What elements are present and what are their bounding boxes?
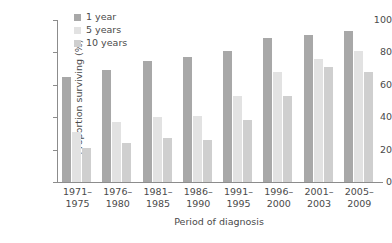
x-axis-line — [57, 182, 383, 183]
legend-item: 10 years — [74, 37, 127, 49]
y-tick-mark — [53, 150, 57, 151]
bar-group-bars — [342, 20, 382, 182]
bar-5-years — [273, 72, 282, 182]
bar-10-years — [283, 96, 292, 182]
bar-5-years — [153, 117, 162, 182]
legend-swatch-icon — [74, 14, 81, 21]
x-tick-label-line2: 2009 — [337, 198, 382, 210]
y-tick-mark — [53, 117, 57, 118]
bar-10-years — [324, 67, 333, 182]
x-tick-label: 1976–1980 — [95, 186, 140, 209]
bar-10-years — [203, 140, 212, 182]
bar-1-year — [102, 70, 111, 182]
bar-5-years — [72, 132, 81, 182]
bar-5-years — [354, 51, 363, 182]
x-tick-label-line2: 1985 — [136, 198, 181, 210]
bar-10-years — [82, 148, 91, 182]
bar-5-years — [193, 116, 202, 182]
x-tick-label-line1: 2001– — [297, 186, 342, 198]
x-tick-label-line2: 1990 — [176, 198, 221, 210]
bar-group: 1996–2000 — [261, 20, 301, 182]
x-tick-label: 1971–1975 — [55, 186, 100, 209]
bar-group: 2001–2003 — [302, 20, 342, 182]
x-tick-label-line2: 2003 — [297, 198, 342, 210]
x-tick-label-line2: 1980 — [95, 198, 140, 210]
x-tick-label-line1: 1996– — [256, 186, 301, 198]
x-tick-label: 2001–2003 — [297, 186, 342, 209]
x-tick-label-line1: 1976– — [95, 186, 140, 198]
bar-5-years — [112, 122, 121, 182]
bar-10-years — [122, 143, 131, 182]
bar-group-bars — [221, 20, 261, 182]
x-tick-label-line1: 1981– — [136, 186, 181, 198]
bar-chart: 020406080100 Proportion surviving (%) 19… — [0, 0, 392, 243]
bar-1-year — [183, 57, 192, 182]
legend-item: 5 years — [74, 24, 127, 36]
legend: 1 year5 years10 years — [74, 11, 127, 50]
y-tick-mark — [53, 20, 57, 21]
bar-group: 1981–1985 — [141, 20, 181, 182]
bar-1-year — [223, 51, 232, 182]
bar-group-bars — [261, 20, 301, 182]
bar-5-years — [314, 59, 323, 182]
x-axis-title: Period of diagnosis — [58, 216, 380, 227]
bar-10-years — [163, 138, 172, 182]
bar-group: 2005–2009 — [342, 20, 382, 182]
bar-10-years — [243, 120, 252, 182]
bar-group-bars — [141, 20, 181, 182]
legend-item: 1 year — [74, 11, 127, 23]
bar-1-year — [143, 61, 152, 183]
y-tick-mark — [53, 85, 57, 86]
legend-label: 5 years — [86, 25, 121, 35]
legend-swatch-icon — [74, 40, 81, 47]
bar-group-bars — [181, 20, 221, 182]
x-tick-label: 1996–2000 — [256, 186, 301, 209]
x-tick-label-line1: 1986– — [176, 186, 221, 198]
bar-1-year — [263, 38, 272, 182]
bar-group-bars — [302, 20, 342, 182]
x-tick-label: 2005–2009 — [337, 186, 382, 209]
x-tick-label-line1: 1971– — [55, 186, 100, 198]
bar-group: 1991–1995 — [221, 20, 261, 182]
x-tick-label-line1: 1991– — [216, 186, 261, 198]
bar-group: 1986–1990 — [181, 20, 221, 182]
x-tick-label-line2: 2000 — [256, 198, 301, 210]
bar-5-years — [233, 96, 242, 182]
bar-1-year — [344, 31, 353, 182]
legend-label: 1 year — [86, 12, 116, 22]
legend-label: 10 years — [86, 38, 127, 48]
bar-1-year — [304, 35, 313, 182]
y-tick-mark — [53, 52, 57, 53]
legend-swatch-icon — [74, 27, 81, 34]
bar-10-years — [364, 72, 373, 182]
x-tick-label-line2: 1975 — [55, 198, 100, 210]
x-tick-label: 1981–1985 — [136, 186, 181, 209]
x-tick-label-line1: 2005– — [337, 186, 382, 198]
x-tick-label: 1986–1990 — [176, 186, 221, 209]
bar-1-year — [62, 77, 71, 182]
x-tick-label: 1991–1995 — [216, 186, 261, 209]
x-tick-label-line2: 1995 — [216, 198, 261, 210]
